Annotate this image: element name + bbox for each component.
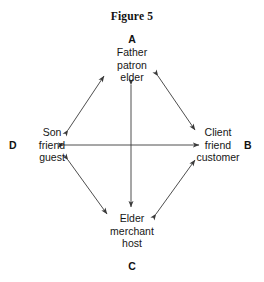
node-d-line-3: guest xyxy=(22,151,82,164)
node-d-key: D xyxy=(9,139,17,151)
node-d: Son friend guest xyxy=(22,126,82,164)
edge-a-b xyxy=(158,76,195,130)
node-a-line-1: Father xyxy=(82,46,182,59)
edge-d-a xyxy=(68,76,104,130)
node-b-line-3: customer xyxy=(186,151,250,164)
node-b: Client friend customer xyxy=(186,126,250,164)
node-d-line-2: friend xyxy=(22,139,82,152)
node-c-line-2: merchant xyxy=(82,225,182,238)
node-b-key: B xyxy=(244,139,252,151)
node-a: Father patron elder xyxy=(82,46,182,84)
edge-c-b xyxy=(156,160,195,214)
node-c-key: C xyxy=(0,260,264,272)
node-a-key: A xyxy=(0,33,264,45)
node-d-line-1: Son xyxy=(22,126,82,139)
figure-container: Figure 5 Father patron elder A Client fr… xyxy=(0,0,264,282)
node-c-line-3: host xyxy=(82,237,182,250)
node-b-line-1: Client xyxy=(186,126,250,139)
node-c-line-1: Elder xyxy=(82,212,182,225)
node-a-line-2: patron xyxy=(82,59,182,72)
node-b-line-2: friend xyxy=(186,139,250,152)
node-a-line-3: elder xyxy=(82,71,182,84)
node-c: Elder merchant host xyxy=(82,212,182,250)
edge-d-c xyxy=(68,160,107,214)
